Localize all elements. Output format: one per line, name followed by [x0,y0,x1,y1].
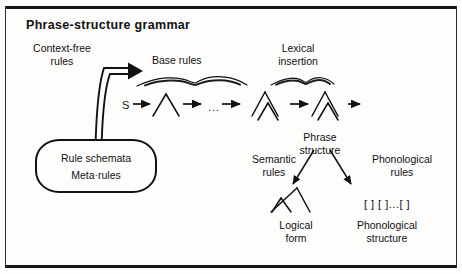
label-phonological-structure: Phonological structure [340,219,434,244]
figure-phrase-structure-grammar: Phrase-structure grammar [0,0,462,274]
label-phonological-rules-line2: rules [391,166,414,178]
rule-box-line2: Meta·rules [37,169,155,181]
label-logical-form: Logical form [264,219,328,244]
rule-box-line1: Rule schemata [37,152,155,164]
label-derivation-ellipsis: ... [208,101,220,114]
tree-expanded-1 [252,92,278,120]
label-lexical-insertion-line2: insertion [278,55,318,67]
tree-simple [153,94,179,116]
label-phonological-structure-line1: Phonological [357,219,417,231]
label-semantic-rules-line2: rules [263,166,286,178]
label-phonological-structure-line2: structure [367,232,408,244]
label-context-free-rules-line2: rules [51,55,74,67]
label-start-symbol: S [122,99,129,112]
label-phrase-structure-line1: Phrase [303,131,336,143]
label-semantic-rules-line1: Semantic [252,153,296,165]
label-context-free-rules: Context-free rules [16,42,108,67]
label-phonological-rules-line1: Phonological [372,153,432,165]
tree-logical-form [271,188,310,212]
label-base-rules: Base rules [152,54,202,67]
label-logical-form-line2: form [286,232,307,244]
label-logical-form-line1: Logical [279,219,312,231]
label-phonological-rules: Phonological rules [360,153,444,178]
label-lexical-insertion-line1: Lexical [282,42,315,54]
label-semantic-rules: Semantic rules [238,153,310,178]
brace-lexical-insertion [271,78,334,85]
brace-base-rules [137,77,247,86]
label-lexical-insertion: Lexical insertion [258,42,338,67]
tree-expanded-2 [312,92,338,120]
rule-schemata-box: Rule schemata Meta·rules [35,139,157,193]
label-phonological-brackets: [ ] [ ]...[ ] [340,198,434,211]
label-context-free-rules-line1: Context-free [33,42,91,54]
